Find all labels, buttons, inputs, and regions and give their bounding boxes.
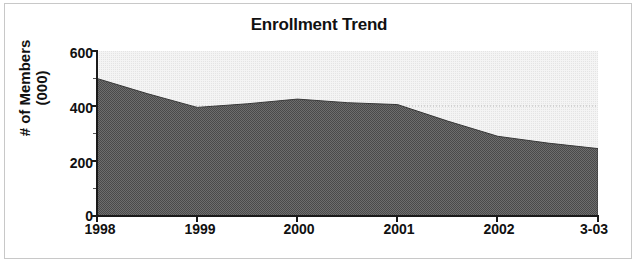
x-axis-tick-labels: 1998 1999 2000 2001 2002 3-03 — [5, 221, 640, 247]
x-axis-line — [96, 215, 599, 217]
y-tick-label-400: 400 — [49, 100, 93, 116]
chart-title: Enrollment Trend — [5, 15, 633, 35]
chart-frame: Enrollment Trend # of Members (000) 600 … — [4, 3, 632, 259]
x-tick-label-2002: 2002 — [483, 221, 514, 237]
y-tick-label-600: 600 — [49, 45, 93, 61]
area-series-svg — [97, 51, 598, 216]
x-tick-label-2001: 2001 — [383, 221, 414, 237]
x-tick-label-3-03: 3-03 — [580, 221, 608, 237]
y-axis-title-line1: # of Members — [16, 40, 33, 137]
x-tick-label-1998: 1998 — [84, 221, 115, 237]
y-axis-line — [96, 50, 98, 217]
plot-area — [97, 51, 598, 216]
y-tick-label-200: 200 — [49, 155, 93, 171]
x-tick-label-2000: 2000 — [283, 221, 314, 237]
x-tick-label-1999: 1999 — [184, 221, 215, 237]
